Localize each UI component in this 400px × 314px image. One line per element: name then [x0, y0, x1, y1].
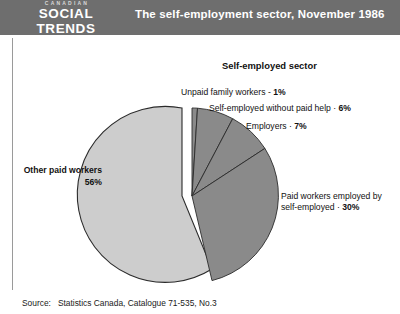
- label-self-employed-without-paid-help-value: 6%: [338, 103, 350, 113]
- label-unpaid-family-workers-text: Unpaid family workers -: [181, 87, 273, 97]
- label-self-employed-without-paid-help: Self-employed without paid help · 6%: [209, 103, 351, 114]
- source-label: Source:: [22, 298, 51, 308]
- label-other-paid-workers-text: Other paid workers: [24, 165, 102, 175]
- label-other-paid-workers-value: 56%: [85, 177, 102, 187]
- label-unpaid-family-workers-value: 1%: [273, 87, 285, 97]
- source-note: Source:Statistics Canada, Catalogue 71-5…: [22, 298, 217, 308]
- label-self-employed-without-paid-help-text: Self-employed without paid help ·: [209, 103, 338, 113]
- label-employers: Employers · 7%: [246, 121, 307, 132]
- label-employers-value: 7%: [294, 121, 306, 131]
- masthead-line-social: SOCIAL: [22, 7, 110, 21]
- label-paid-workers-value: 30%: [342, 202, 359, 212]
- pie-chart-figure: Self-employed sector Unpaid family worke…: [0, 35, 400, 285]
- chart-section-title: Self-employed sector: [222, 60, 317, 71]
- page-title: The self-employment sector, November 198…: [135, 8, 385, 20]
- label-unpaid-family-workers: Unpaid family workers - 1%: [181, 87, 286, 98]
- label-paid-workers-text: Paid workers employed by self-employed ·: [281, 191, 382, 212]
- masthead-line-trends: TRENDS: [22, 22, 110, 36]
- label-other-paid-workers: Other paid workers 56%: [22, 165, 102, 188]
- source-text: Statistics Canada, Catalogue 71-535, No.…: [58, 298, 217, 308]
- label-employers-text: Employers ·: [246, 121, 294, 131]
- label-paid-workers-employed-by-self-employed: Paid workers employed by self-employed ·…: [281, 191, 399, 213]
- masthead-logo: CANADIAN SOCIAL TRENDS: [22, 0, 110, 35]
- pie-chart-svg: [0, 35, 400, 285]
